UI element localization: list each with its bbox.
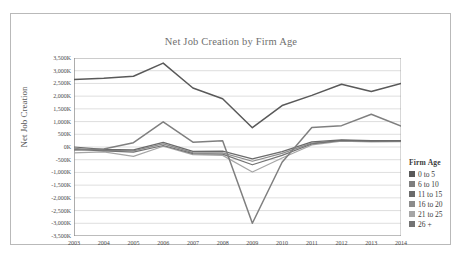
- series-line: [74, 140, 401, 164]
- series-line: [74, 114, 401, 223]
- chart-title: Net Job Creation by Firm Age: [81, 36, 381, 47]
- x-tick-label: 2013: [365, 240, 377, 246]
- chart-svg: [74, 58, 401, 236]
- y-tick-label: -3,000K: [51, 220, 71, 226]
- legend-item-label: 16 to 20: [418, 200, 443, 209]
- series-line: [74, 63, 401, 128]
- y-tick-label: -2,000K: [51, 195, 71, 201]
- y-axis-title: Net Job Creation: [19, 81, 29, 153]
- y-tick-label: -1,000K: [51, 169, 71, 175]
- legend-swatch-icon: [409, 201, 415, 207]
- x-tick-label: 2006: [157, 240, 169, 246]
- x-tick-label: 2009: [246, 240, 258, 246]
- y-tick-label: 2,500K: [53, 80, 71, 86]
- y-tick-label: -1,500K: [51, 182, 71, 188]
- legend-swatch-icon: [409, 181, 415, 187]
- legend-item[interactable]: 26 +: [409, 219, 463, 229]
- legend: Firm Age 0 to 56 to 1011 to 1516 to 2021…: [409, 158, 463, 229]
- x-tick-label: 2008: [217, 240, 229, 246]
- legend-swatch-icon: [409, 171, 415, 177]
- series-line: [74, 140, 401, 159]
- y-tick-label: 3,500K: [53, 55, 71, 61]
- legend-item-label: 0 to 5: [418, 170, 435, 179]
- y-tick-label: 1,000K: [53, 119, 71, 125]
- legend-item[interactable]: 11 to 15: [409, 189, 463, 199]
- legend-item-label: 6 to 10: [418, 180, 439, 189]
- legend-item-label: 21 to 25: [418, 210, 443, 219]
- legend-item-label: 26 +: [418, 220, 432, 229]
- x-tick-label: 2007: [187, 240, 199, 246]
- y-tick-label: 500K: [58, 131, 71, 137]
- plot-area: [74, 58, 401, 236]
- y-axis-tick-labels: 3,500K3,000K2,500K2,000K1,500K1,000K500K…: [29, 58, 71, 236]
- legend-swatch-icon: [409, 221, 415, 227]
- y-tick-label: -500K: [56, 157, 71, 163]
- y-tick-label: -2,500K: [51, 208, 71, 214]
- x-tick-label: 2011: [306, 240, 318, 246]
- y-tick-label: -3,500K: [51, 233, 71, 239]
- y-tick-label: 1,500K: [53, 106, 71, 112]
- legend-swatch-icon: [409, 191, 415, 197]
- series-line: [74, 141, 401, 162]
- x-tick-label: 2014: [395, 240, 407, 246]
- x-tick-label: 2003: [68, 240, 80, 246]
- x-tick-label: 2012: [336, 240, 348, 246]
- x-axis-tick-labels: 2003200420052006200720082009201020112012…: [74, 240, 401, 252]
- x-tick-label: 2005: [127, 240, 139, 246]
- legend-swatch-icon: [409, 211, 415, 217]
- legend-item[interactable]: 16 to 20: [409, 199, 463, 209]
- legend-item[interactable]: 6 to 10: [409, 179, 463, 189]
- y-tick-label: 0K: [64, 144, 71, 150]
- legend-title: Firm Age: [409, 158, 463, 167]
- y-tick-label: 3,000K: [53, 68, 71, 74]
- x-tick-label: 2010: [276, 240, 288, 246]
- legend-item[interactable]: 21 to 25: [409, 209, 463, 219]
- chart-frame: Net Job Creation by Firm Age Net Job Cre…: [10, 13, 451, 245]
- x-tick-label: 2004: [98, 240, 110, 246]
- legend-item[interactable]: 0 to 5: [409, 169, 463, 179]
- y-tick-label: 2,000K: [53, 93, 71, 99]
- legend-items: 0 to 56 to 1011 to 1516 to 2021 to 2526 …: [409, 169, 463, 229]
- legend-item-label: 11 to 15: [418, 190, 442, 199]
